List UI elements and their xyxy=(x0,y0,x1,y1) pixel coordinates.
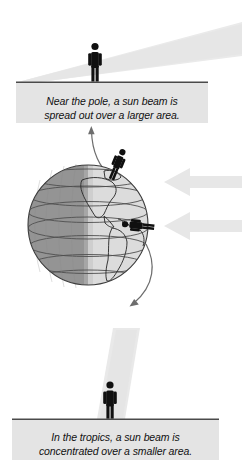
caption-line-1: In the tropics, a sun beam is xyxy=(51,431,179,443)
bottom-measure-arrow xyxy=(0,0,242,460)
caption-line-2: concentrated over a smaller area. xyxy=(12,445,219,459)
in-the-tropics-caption-text: In the tropics, a sun beam is concentrat… xyxy=(12,431,219,458)
diagram-canvas: Near the pole, a sun beam is spread out … xyxy=(0,0,242,460)
in-the-tropics-caption: In the tropics, a sun beam is concentrat… xyxy=(12,419,219,460)
